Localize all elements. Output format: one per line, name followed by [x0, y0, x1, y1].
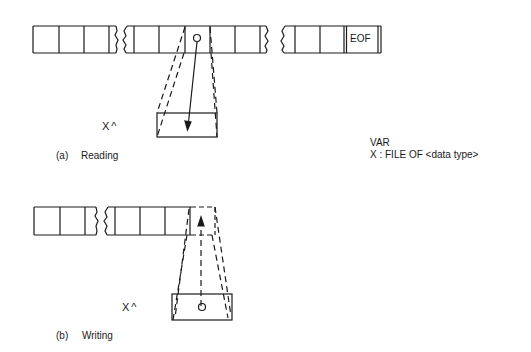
reading-window-projection — [157, 27, 217, 137]
current-element-marker — [194, 35, 201, 42]
tape-segment-2 — [123, 26, 268, 53]
new-element-marker — [199, 304, 206, 311]
tape-segment-1 — [33, 26, 118, 53]
writing-caption-letter: (b) — [56, 330, 68, 341]
reading-buffer-label: X^ — [102, 120, 119, 132]
declaration-file-type: X : FILE OF <data type> — [370, 149, 478, 160]
file-buffer-diagram — [0, 0, 531, 352]
new-element-cell — [191, 207, 215, 235]
reading-caption-text: Reading — [81, 150, 118, 161]
writing-buffer-label: X^ — [122, 301, 139, 313]
writing-caption-text: Writing — [82, 330, 113, 341]
eof-label: EOF — [350, 33, 371, 44]
tape-segment-1 — [34, 207, 98, 235]
tape-segment-2 — [104, 207, 191, 235]
reading-file-tape — [33, 26, 381, 53]
writing-buffer-box — [172, 294, 232, 320]
declaration-var: VAR — [370, 137, 390, 148]
reading-caption-letter: (a) — [56, 150, 68, 161]
